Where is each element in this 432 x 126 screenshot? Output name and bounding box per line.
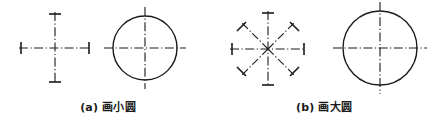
star-tick-diagonal-sw [237,67,246,76]
figure-panel-a: (a) 画小圆 [0,0,216,126]
star-ray-diagonal-ne [268,22,295,49]
large-circle-figure [333,2,427,94]
panel-a-caption-text: (a) 画小圆 [80,101,136,114]
star-tick-diagonal-ne [290,22,299,31]
star-ray-diagonal-sw [241,49,268,76]
star-tick-diagonal-nw [237,22,246,31]
figure-panel-b: (b) 画大圆 [216,0,432,126]
figure-root: (a) 画小圆 [0,0,432,126]
eight-ray-star-centerline [230,11,306,87]
panel-b-caption-text: (b) 画大圆 [296,101,352,114]
panel-a-drawing [0,0,216,100]
panel-b-caption: (b) 画大圆 [216,100,432,115]
star-ray-diagonal-nw [241,22,268,49]
small-circle-figure [104,7,186,89]
panel-a-caption: (a) 画小圆 [0,100,216,115]
star-ray-diagonal-se [268,49,295,76]
star-tick-diagonal-se [290,67,299,76]
crosshair-centerline [19,12,91,84]
panel-b-drawing [216,0,432,100]
